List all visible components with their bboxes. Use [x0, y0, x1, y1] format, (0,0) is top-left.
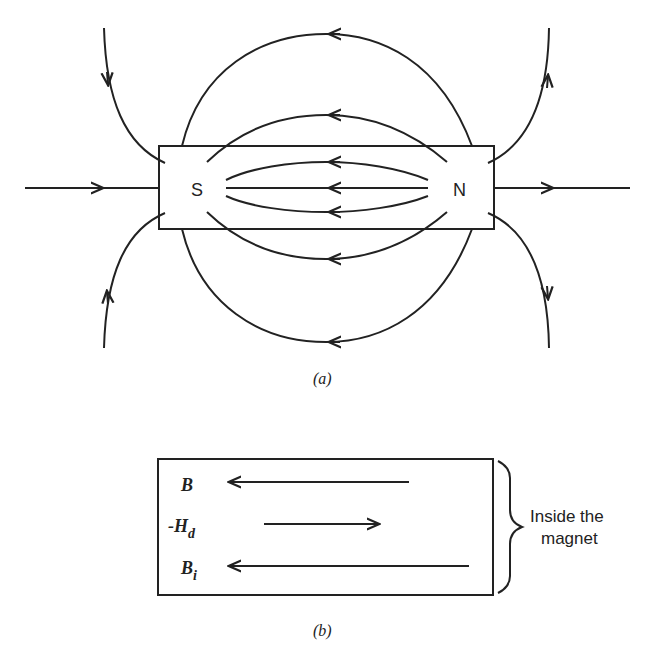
arrow-left-bottom [107, 292, 108, 304]
arrow-right-bottom [547, 286, 548, 298]
field-line-outer-top [182, 34, 472, 146]
curly-brace [498, 461, 522, 593]
field-line-left-top [104, 28, 165, 163]
figure-canvas: S N [0, 0, 653, 656]
field-line-inner-top [226, 162, 428, 180]
bracket-label-line2: magnet [541, 529, 598, 548]
field-line-right-top [488, 28, 549, 163]
label-hd: -Hd [168, 516, 196, 541]
caption-a: (a) [313, 370, 332, 388]
arrow-right-top [547, 76, 548, 88]
label-bi: Bi [180, 558, 197, 583]
label-bi-subscript: i [193, 568, 197, 583]
north-pole-label: N [453, 180, 466, 200]
arrow-left-top [107, 72, 108, 84]
label-bi-symbol: B [180, 558, 193, 578]
figure-b: B -Hd Bi Inside the magnet (b) [158, 459, 604, 640]
field-line-outer-bottom [182, 229, 472, 342]
figure-a: S N [25, 28, 630, 388]
field-line-left-bottom [104, 213, 165, 348]
field-line-inner-bottom [226, 196, 428, 212]
inside-magnet-box [158, 459, 493, 595]
label-hd-symbol: H [173, 516, 189, 536]
field-line-second-bottom [207, 212, 447, 259]
south-pole-label: S [191, 180, 203, 200]
field-line-second-top [207, 115, 447, 162]
label-hd-subscript: d [188, 526, 196, 541]
caption-b: (b) [313, 622, 332, 640]
label-b: B [180, 475, 193, 495]
field-line-right-bottom [488, 213, 549, 348]
bracket-label-line1: Inside the [530, 507, 604, 526]
